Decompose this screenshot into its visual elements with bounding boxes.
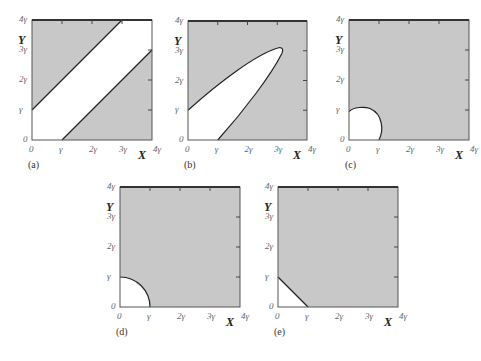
plot-area-d xyxy=(120,187,240,307)
x-tick-label: 4γ xyxy=(241,312,249,321)
plot-area-e xyxy=(278,187,398,307)
y-tick-label: γ xyxy=(19,105,23,114)
x-tick-label: 3γ xyxy=(119,145,127,154)
x-tick-label: 3γ xyxy=(274,145,282,154)
x-tick-label: 0 xyxy=(275,312,280,321)
y-tick-label: 0 xyxy=(179,135,184,144)
y-tick-label: 2γ xyxy=(265,242,273,251)
y-tick-label: 4γ xyxy=(107,182,115,191)
x-axis-title: X xyxy=(293,149,301,161)
y-axis-title: Y xyxy=(335,34,342,46)
y-axis-title: Y xyxy=(264,201,271,213)
y-tick-label: 0 xyxy=(269,302,274,311)
panel-label: (a) xyxy=(28,160,39,170)
plot-area-a xyxy=(32,20,152,140)
x-tick-label: γ xyxy=(147,312,151,321)
plot-area-c xyxy=(349,20,469,140)
y-tick-label: 0 xyxy=(340,135,345,144)
x-tick-label: 4γ xyxy=(153,145,161,154)
x-tick-label: 3γ xyxy=(365,312,373,321)
y-tick-label: 4γ xyxy=(336,15,344,24)
panel-label: (e) xyxy=(274,327,285,337)
x-tick-label: 2γ xyxy=(335,312,343,321)
y-tick-label: 4γ xyxy=(265,182,273,191)
panel-label: (c) xyxy=(345,160,356,170)
y-tick-label: γ xyxy=(175,105,179,114)
x-tick-label: 4γ xyxy=(399,312,407,321)
x-tick-label: γ xyxy=(305,312,309,321)
x-tick-label: 0 xyxy=(29,145,34,154)
x-tick-label: 4γ xyxy=(308,145,316,154)
y-axis-title: Y xyxy=(18,34,25,46)
x-tick-label: 2γ xyxy=(177,312,185,321)
x-axis-title: X xyxy=(138,149,146,161)
x-tick-label: 2γ xyxy=(245,145,253,154)
y-axis-title: Y xyxy=(174,35,181,47)
y-tick-label: 2γ xyxy=(336,75,344,84)
y-tick-label: 2γ xyxy=(19,75,27,84)
panel-label: (d) xyxy=(116,327,128,337)
y-axis-title: Y xyxy=(106,201,113,213)
x-tick-label: γ xyxy=(376,145,380,154)
y-tick-label: 2γ xyxy=(107,242,115,251)
x-tick-label: 4γ xyxy=(470,145,478,154)
y-tick-label: 0 xyxy=(111,302,116,311)
x-axis-title: X xyxy=(455,149,463,161)
y-tick-label: γ xyxy=(265,272,269,281)
x-tick-label: γ xyxy=(215,145,219,154)
x-tick-label: 2γ xyxy=(89,145,97,154)
x-tick-label: 0 xyxy=(346,145,351,154)
x-tick-label: 2γ xyxy=(406,145,414,154)
panel-label: (b) xyxy=(184,160,196,170)
y-tick-label: 4γ xyxy=(19,15,27,24)
y-tick-label: 4γ xyxy=(175,16,183,25)
x-tick-label: 0 xyxy=(185,145,190,154)
x-axis-title: X xyxy=(226,316,234,328)
x-tick-label: 0 xyxy=(117,312,122,321)
x-axis-title: X xyxy=(384,316,392,328)
x-tick-label: 3γ xyxy=(436,145,444,154)
x-tick-label: γ xyxy=(59,145,63,154)
x-tick-label: 3γ xyxy=(207,312,215,321)
plot-area-b xyxy=(188,21,307,140)
y-tick-label: 2γ xyxy=(175,76,183,85)
y-tick-label: γ xyxy=(336,105,340,114)
y-tick-label: 0 xyxy=(23,135,28,144)
y-tick-label: γ xyxy=(107,272,111,281)
